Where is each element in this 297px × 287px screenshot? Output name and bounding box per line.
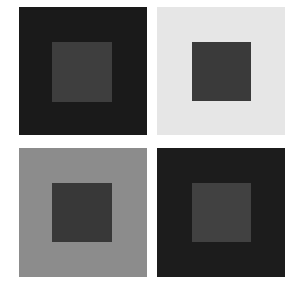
panel-bottom-left-center-square	[52, 183, 112, 242]
panel-top-left-center-square	[52, 42, 112, 102]
panel-top-right-center-square	[192, 42, 251, 101]
panel-bottom-right-background	[157, 148, 285, 277]
panel-bottom-left-background	[19, 148, 147, 277]
panel-top-right-background	[157, 7, 285, 135]
panel-top-left-background	[19, 7, 147, 135]
panel-bottom-right-center-square	[192, 183, 251, 242]
